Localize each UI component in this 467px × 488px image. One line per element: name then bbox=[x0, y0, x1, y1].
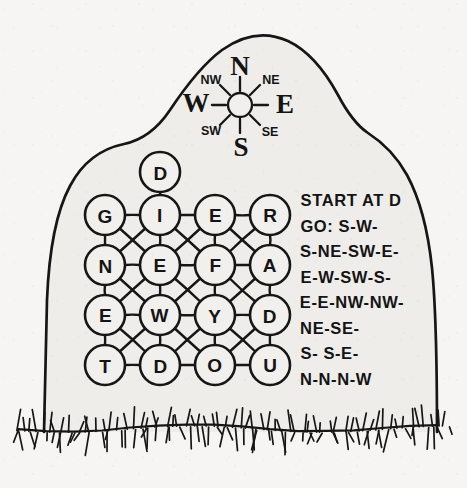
node-letter: R bbox=[263, 205, 277, 226]
grass-blade bbox=[269, 431, 270, 440]
node-letter: E bbox=[209, 205, 222, 226]
grass-blade bbox=[191, 427, 192, 449]
instruction-line-5: E-E-NW-NW- bbox=[300, 293, 404, 311]
compass-label-east: E bbox=[276, 89, 294, 119]
grid-node-t-3-0[interactable]: T bbox=[85, 345, 125, 385]
grid-node-r-0-3[interactable]: R bbox=[250, 195, 290, 235]
node-letter: D bbox=[153, 163, 167, 184]
node-letter: A bbox=[263, 255, 277, 276]
grass-blade bbox=[438, 410, 439, 426]
compass-label-southeast: SE bbox=[262, 125, 279, 139]
grid-node-start-d[interactable]: D bbox=[140, 152, 180, 192]
grid-node-i-0-1[interactable]: I bbox=[140, 195, 180, 235]
grass-blade bbox=[117, 418, 118, 430]
node-letter: T bbox=[99, 356, 111, 377]
compass-label-north: N bbox=[230, 51, 250, 81]
grass-blade bbox=[450, 427, 453, 434]
grass-blade bbox=[291, 433, 295, 441]
grass-blade bbox=[434, 427, 435, 449]
grid-node-e-1-1[interactable]: E bbox=[140, 245, 180, 285]
grass-blade bbox=[413, 409, 414, 428]
grass-blade bbox=[34, 433, 38, 449]
grass-blade bbox=[30, 432, 35, 447]
grid-node-d-2-3[interactable]: D bbox=[250, 295, 290, 335]
compass-hub-circle bbox=[228, 93, 252, 117]
grid-node-a-1-3[interactable]: A bbox=[250, 245, 290, 285]
grid-node-n-1-0[interactable]: N bbox=[85, 245, 125, 285]
grass-blade bbox=[412, 428, 413, 436]
node-letter: D bbox=[153, 356, 167, 377]
grid-node-w-2-1[interactable]: W bbox=[140, 295, 180, 335]
instruction-line-1: START AT D bbox=[301, 191, 402, 209]
grass-blade bbox=[155, 428, 156, 441]
grass-blade bbox=[271, 431, 273, 444]
grass-blade bbox=[122, 431, 123, 447]
node-letter: I bbox=[157, 205, 162, 226]
instruction-line-2: GO: S-W- bbox=[300, 217, 378, 235]
grass-blade bbox=[402, 417, 403, 428]
grass-blade bbox=[29, 419, 30, 432]
node-letter: O bbox=[207, 355, 222, 376]
grass-blade bbox=[349, 432, 354, 441]
grid-node-u-3-3[interactable]: U bbox=[250, 345, 290, 385]
grid-node-f-1-2[interactable]: F bbox=[195, 245, 235, 285]
grass-blade bbox=[17, 409, 21, 430]
grass-blade bbox=[208, 427, 209, 445]
node-letter: D bbox=[263, 306, 277, 327]
grass-blade bbox=[442, 412, 444, 426]
node-letter: F bbox=[210, 255, 222, 276]
compass-label-southwest: SW bbox=[201, 124, 221, 138]
grass-blade bbox=[14, 431, 18, 442]
grid-node-e-0-2[interactable]: E bbox=[195, 195, 235, 235]
grass-blade bbox=[346, 433, 348, 450]
grass-blade bbox=[52, 433, 54, 443]
node-letter: G bbox=[97, 206, 112, 227]
compass-label-northwest: NW bbox=[201, 73, 222, 87]
grass-blade bbox=[134, 407, 135, 429]
grass-blade bbox=[69, 415, 70, 432]
grass-blade bbox=[382, 409, 383, 430]
node-letter: Y bbox=[208, 306, 221, 327]
puzzle-scene: N S E W NE NW SE SW GIERNEFAEWYDTDOUD ST… bbox=[0, 0, 467, 488]
compass-label-northeast: NE bbox=[262, 73, 279, 87]
grass-blade bbox=[134, 430, 136, 448]
grid-node-o-3-2[interactable]: O bbox=[195, 345, 235, 385]
grass-blade bbox=[317, 433, 322, 442]
grass-blade bbox=[383, 430, 388, 452]
grass-blade bbox=[376, 430, 379, 444]
grid-node-d-3-1[interactable]: D bbox=[140, 345, 180, 385]
grass-blade bbox=[173, 416, 174, 427]
instruction-line-7: S- S-E- bbox=[301, 344, 359, 362]
node-letter: U bbox=[263, 355, 277, 376]
node-letter: W bbox=[150, 305, 168, 326]
grid-node-e-2-0[interactable]: E bbox=[85, 295, 125, 335]
node-letter: E bbox=[99, 305, 112, 326]
grass-blade bbox=[147, 428, 148, 449]
grass-blade bbox=[32, 410, 36, 432]
tombstone-drawing: N S E W NE NW SE SW GIERNEFAEWYDTDOUD ST… bbox=[0, 0, 467, 488]
instruction-line-4: E-W-SW-S- bbox=[301, 268, 392, 286]
grass-blade bbox=[320, 423, 321, 432]
grass-blade bbox=[19, 432, 23, 450]
grass-blade bbox=[357, 432, 359, 444]
instruction-line-3: S-NE-SW-E- bbox=[300, 242, 399, 260]
grass-blade bbox=[44, 413, 45, 432]
grass-blade bbox=[85, 433, 89, 456]
node-letter: N bbox=[99, 256, 113, 277]
instruction-line-6: NE-SE- bbox=[300, 319, 360, 337]
compass-label-south: S bbox=[233, 132, 248, 162]
grid-node-y-2-2[interactable]: Y bbox=[195, 295, 235, 335]
grid-node-g-0-0[interactable]: G bbox=[85, 195, 125, 235]
grass-blade bbox=[308, 433, 312, 444]
node-letter: E bbox=[154, 255, 167, 276]
instruction-line-8: N-N-N-W bbox=[300, 370, 372, 388]
grass-blade bbox=[103, 432, 105, 447]
compass-label-west: W bbox=[183, 88, 210, 118]
